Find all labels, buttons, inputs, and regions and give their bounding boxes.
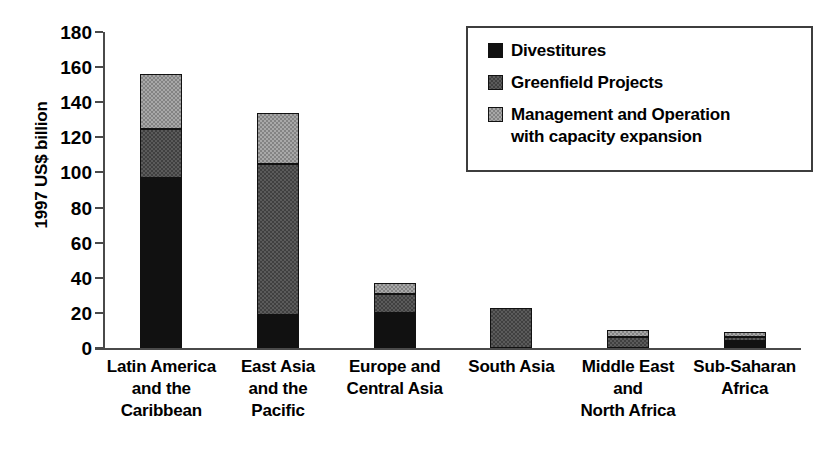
y-tick-mark xyxy=(95,242,103,244)
bar-segment-greenfield[interactable] xyxy=(724,337,766,341)
x-axis-label-1: Latin America and the Caribbean xyxy=(103,356,220,421)
y-tick-mark xyxy=(95,31,103,33)
x-axis-label-2: East Asia and the Pacific xyxy=(220,356,337,421)
bar-segment-greenfield[interactable] xyxy=(490,308,532,348)
y-tick-label: 0 xyxy=(81,339,92,358)
y-tick-mark xyxy=(95,277,103,279)
y-axis-title: 1997 US$ billion xyxy=(32,45,52,285)
y-axis-line xyxy=(103,32,105,349)
y-tick-mark xyxy=(95,312,103,314)
light-gray-swatch-icon xyxy=(488,107,503,122)
y-tick-mark xyxy=(95,171,103,173)
bar-segment-management[interactable] xyxy=(257,113,299,164)
legend-label: Divestitures xyxy=(511,40,606,62)
y-tick-label: 180 xyxy=(60,23,92,42)
bar-segment-greenfield[interactable] xyxy=(140,129,182,178)
bar-stack[interactable] xyxy=(140,32,182,348)
bar-stack[interactable] xyxy=(374,32,416,348)
bar-segment-greenfield[interactable] xyxy=(257,164,299,315)
dark-gray-swatch-icon xyxy=(488,75,503,90)
y-tick-label: 20 xyxy=(71,303,92,322)
bar-segment-divestitures[interactable] xyxy=(140,178,182,348)
y-tick-mark xyxy=(95,347,103,349)
y-tick-label: 60 xyxy=(71,233,92,252)
bar-segment-greenfield[interactable] xyxy=(607,337,649,348)
y-tick-mark xyxy=(95,101,103,103)
bar-segment-management[interactable] xyxy=(607,330,649,337)
x-axis-label-6: Sub-Saharan Africa xyxy=(686,356,803,400)
y-tick-label: 40 xyxy=(71,268,92,287)
bar-segment-greenfield[interactable] xyxy=(374,294,416,313)
y-tick-mark xyxy=(95,136,103,138)
bar-segment-management[interactable] xyxy=(374,283,416,294)
legend-entry-2[interactable]: Greenfield Projects xyxy=(488,72,663,94)
bar-segment-divestitures[interactable] xyxy=(724,341,766,348)
bar-segment-management[interactable] xyxy=(140,74,182,128)
x-axis-label-5: Middle East and North Africa xyxy=(570,356,687,421)
legend: DivestituresGreenfield ProjectsManagemen… xyxy=(466,26,813,172)
bar-stack[interactable] xyxy=(257,32,299,348)
bar-segment-divestitures[interactable] xyxy=(374,313,416,348)
legend-entry-3[interactable]: Management and Operation with capacity e… xyxy=(488,104,730,148)
legend-label: Greenfield Projects xyxy=(511,72,663,94)
legend-entry-1[interactable]: Divestitures xyxy=(488,40,606,62)
y-tick-mark xyxy=(95,207,103,209)
black-swatch-icon xyxy=(488,43,503,58)
x-axis-line xyxy=(95,348,801,350)
stacked-bar-chart: 1997 US$ billion 02040608010012014016018… xyxy=(0,0,825,465)
x-axis-label-4: South Asia xyxy=(453,356,570,378)
legend-label: Management and Operation with capacity e… xyxy=(511,104,730,148)
x-axis-label-3: Europe and Central Asia xyxy=(336,356,453,400)
y-tick-label: 120 xyxy=(60,128,92,147)
y-tick-label: 80 xyxy=(71,198,92,217)
bar-segment-management[interactable] xyxy=(724,332,766,337)
y-tick-label: 100 xyxy=(60,163,92,182)
y-tick-label: 140 xyxy=(60,93,92,112)
y-tick-label: 160 xyxy=(60,58,92,77)
y-tick-mark xyxy=(95,66,103,68)
bar-segment-divestitures[interactable] xyxy=(257,315,299,348)
